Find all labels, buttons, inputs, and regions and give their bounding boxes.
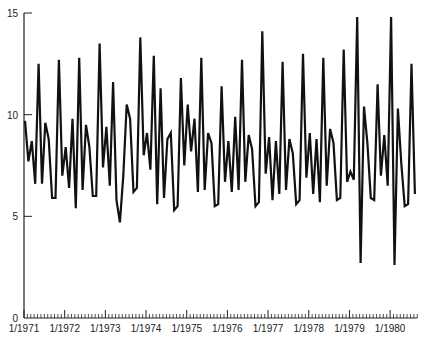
y-tick-label: 5 [12, 211, 18, 222]
x-tick-label: 1/1977 [253, 323, 284, 334]
x-tick-label: 1/1978 [293, 323, 324, 334]
x-tick-label: 1/1972 [49, 323, 80, 334]
y-tick-label: 10 [7, 110, 19, 121]
x-tick-label: 1/1979 [334, 323, 365, 334]
x-tick-label: 1/1980 [375, 323, 406, 334]
x-tick-label: 1/1971 [9, 323, 40, 334]
x-tick-label: 1/1974 [131, 323, 162, 334]
x-tick-label: 1/1975 [171, 323, 202, 334]
x-axis-labels: 1/19711/19721/19731/19741/19751/19761/19… [9, 323, 406, 334]
data-line [25, 17, 415, 265]
y-axis-labels: 051015 [7, 8, 19, 324]
y-tick-label: 15 [7, 8, 19, 19]
x-tick-label: 1/1973 [90, 323, 121, 334]
line-chart: 051015 1/19711/19721/19731/19741/19751/1… [0, 0, 435, 338]
x-tick-label: 1/1976 [212, 323, 243, 334]
